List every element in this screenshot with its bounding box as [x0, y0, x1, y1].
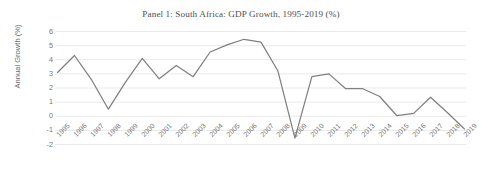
x-tick-label: 1997 [89, 122, 105, 138]
x-tick-label: 2013 [360, 122, 376, 138]
chart-panel: Panel 1: South Africa: GDP Growth, 1995-… [0, 0, 482, 174]
x-tick-label: 1995 [55, 122, 71, 138]
x-tick-label: 2015 [394, 122, 410, 138]
x-axis-ticks: 1995199619971998199920002001200220032004… [0, 0, 482, 174]
x-tick-label: 2008 [275, 122, 291, 138]
x-tick-label: 2017 [428, 122, 444, 138]
x-tick-label: 2001 [157, 122, 173, 138]
x-tick-label: 2004 [208, 122, 224, 138]
x-tick-label: 2007 [259, 122, 275, 138]
x-tick-label: 2003 [191, 122, 207, 138]
x-tick-label: 2016 [411, 122, 427, 138]
x-tick-label: 2019 [462, 122, 478, 138]
x-tick-label: 2000 [140, 122, 156, 138]
x-tick-label: 1998 [106, 122, 122, 138]
x-tick-label: 2005 [225, 122, 241, 138]
x-tick-label: 2011 [326, 122, 342, 138]
x-tick-label: 2012 [343, 122, 359, 138]
x-tick-label: 2002 [174, 122, 190, 138]
x-tick-label: 2009 [292, 122, 308, 138]
x-tick-label: 2010 [309, 122, 325, 138]
x-tick-label: 1996 [72, 122, 88, 138]
x-tick-label: 2014 [377, 122, 393, 138]
x-tick-label: 1999 [123, 122, 139, 138]
x-tick-label: 2006 [242, 122, 258, 138]
x-tick-label: 2018 [445, 122, 461, 138]
